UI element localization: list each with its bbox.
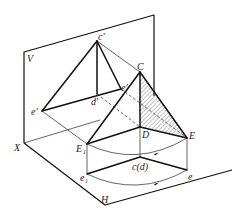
horizontal-plane xyxy=(24,143,232,205)
rotation-arc-upper xyxy=(87,138,187,155)
projection-diagram: V X H c' d' e' e' C D E E 1 c(d) e e 1 xyxy=(0,0,243,221)
projector-e1prime-E1 xyxy=(42,111,87,144)
label-D: D xyxy=(141,129,150,140)
label-e1-sub: 1 xyxy=(85,178,88,184)
label-e-prime: e' xyxy=(121,82,128,93)
rotation-arc-lower xyxy=(87,170,187,185)
label-H: H xyxy=(100,194,109,205)
label-cd: c(d) xyxy=(132,161,149,173)
label-E1: E xyxy=(75,143,82,154)
label-E: E xyxy=(188,130,195,141)
label-V: V xyxy=(27,53,35,64)
label-e: e xyxy=(188,171,193,182)
x-axis-line xyxy=(24,120,100,143)
rotation-arrow-upper xyxy=(154,153,159,156)
label-d-prime: d' xyxy=(91,96,99,107)
label-X: X xyxy=(13,142,21,153)
label-E1-sub: 1 xyxy=(83,149,86,155)
label-C: C xyxy=(137,61,144,72)
label-c-prime: c' xyxy=(98,31,105,42)
v-projection xyxy=(42,41,121,111)
label-e1-prime: e' xyxy=(31,106,38,117)
projector-c-prime-C xyxy=(97,41,140,72)
